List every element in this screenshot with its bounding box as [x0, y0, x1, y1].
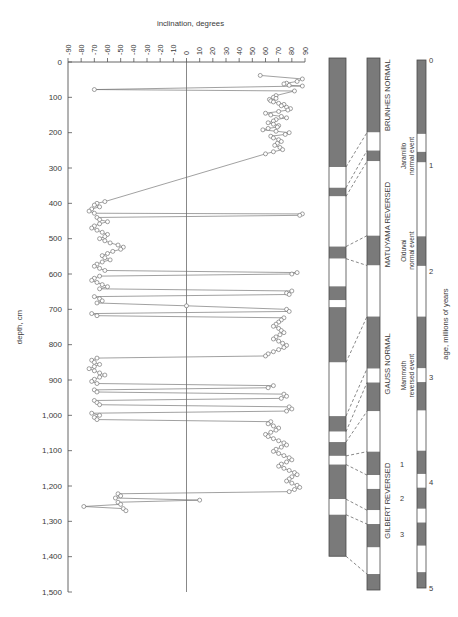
- data-point: [106, 285, 110, 289]
- correlation-line: [346, 452, 367, 456]
- y-tick-label: 900: [49, 376, 63, 385]
- data-point: [287, 292, 291, 296]
- y-tick-label: 500: [49, 234, 63, 243]
- data-point: [295, 473, 299, 477]
- data-point: [103, 200, 107, 204]
- data-point: [87, 367, 91, 371]
- data-point: [285, 460, 289, 464]
- data-point: [90, 312, 94, 316]
- data-point: [266, 126, 270, 130]
- data-point: [87, 209, 91, 213]
- data-point: [292, 488, 296, 492]
- epoch-label: GAUSS NORMAL: [383, 333, 392, 394]
- polarity-band-normal: [367, 317, 380, 369]
- data-point: [95, 390, 99, 394]
- gilbert-event-number: 2: [400, 494, 404, 503]
- data-point: [300, 77, 304, 81]
- data-point: [95, 280, 99, 284]
- data-point: [119, 502, 123, 506]
- x-tick-label: 40: [235, 47, 244, 55]
- data-point: [198, 498, 202, 502]
- polarity-band-reversed: [329, 362, 346, 416]
- data-point: [271, 384, 275, 388]
- x-tick-label: 30: [222, 47, 231, 55]
- data-point: [258, 73, 262, 77]
- data-point: [279, 140, 283, 144]
- data-point: [108, 258, 112, 262]
- data-point: [95, 356, 99, 360]
- data-point: [90, 278, 94, 282]
- data-point: [98, 205, 102, 209]
- x-tick-label: -90: [64, 45, 73, 55]
- data-point: [287, 490, 291, 494]
- data-point: [278, 333, 282, 337]
- correlation-line: [346, 259, 367, 266]
- y-tick-label: 300: [49, 164, 63, 173]
- correlation-line: [346, 383, 367, 432]
- data-point: [275, 125, 279, 129]
- data-point: [271, 449, 275, 453]
- polarity-band-normal: [329, 416, 346, 432]
- polarity-band-normal: [417, 60, 426, 134]
- data-point: [282, 82, 286, 86]
- data-point: [266, 422, 270, 426]
- x-tick-label: 70: [274, 47, 283, 55]
- polarity-band-normal: [329, 307, 346, 362]
- polarity-band-reversed: [367, 547, 380, 574]
- x-tick-label: -40: [129, 45, 138, 55]
- polarity-band-normal: [367, 574, 380, 590]
- polarity-band-reversed: [367, 265, 380, 316]
- data-point: [92, 203, 96, 207]
- polarity-band-normal: [329, 515, 346, 557]
- polarity-band-normal: [367, 489, 380, 510]
- data-point: [98, 266, 102, 270]
- correlation-line: [346, 515, 367, 524]
- figure-canvas: -90-80-70-60-50-40-30-20-100102030405060…: [0, 0, 458, 617]
- data-point: [98, 413, 102, 417]
- y-tick-label: 1,200: [42, 482, 63, 491]
- polarity-band-normal: [417, 317, 426, 369]
- data-point: [279, 104, 283, 108]
- data-point: [92, 365, 96, 369]
- age-scale-column: [417, 60, 426, 588]
- event-label-line2: reversed event: [408, 354, 415, 398]
- correlation-line: [346, 236, 367, 247]
- data-point: [287, 131, 291, 135]
- data-point: [286, 108, 290, 112]
- y-tick-label: 800: [49, 340, 63, 349]
- event-label-line1: Mammoth: [400, 361, 407, 391]
- polarity-band-normal: [367, 383, 380, 412]
- data-point: [290, 481, 294, 485]
- x-tick-label: -60: [103, 45, 112, 55]
- y-tick-label: 1,100: [42, 446, 63, 455]
- data-point: [264, 354, 268, 358]
- data-point: [282, 331, 286, 335]
- correlation-line: [346, 499, 367, 510]
- data-point: [95, 314, 99, 318]
- data-point: [271, 424, 275, 428]
- data-point: [287, 83, 291, 87]
- polarity-band-reversed: [367, 411, 380, 451]
- polarity-band-reversed: [367, 475, 380, 489]
- polarity-band-normal: [329, 188, 346, 197]
- polarity-band-normal: [417, 523, 426, 546]
- data-point: [271, 100, 275, 104]
- y-tick-label: 400: [49, 199, 63, 208]
- correlation-line: [346, 161, 367, 196]
- data-point: [90, 379, 94, 383]
- polarity-band-normal: [417, 382, 426, 411]
- age-tick-label: 4: [429, 478, 433, 487]
- y-tick-label: 100: [49, 93, 63, 102]
- data-point: [90, 226, 94, 230]
- data-point: [285, 443, 289, 447]
- data-point: [95, 418, 99, 422]
- data-point: [106, 252, 110, 256]
- correlation-line: [346, 317, 367, 363]
- correlation-line: [346, 411, 367, 442]
- polarity-band-normal: [367, 236, 380, 266]
- data-point: [274, 428, 278, 432]
- age-tick-label: 5: [429, 584, 433, 593]
- data-point: [98, 362, 102, 366]
- x-tick-label: -70: [90, 45, 99, 55]
- data-point: [98, 222, 102, 226]
